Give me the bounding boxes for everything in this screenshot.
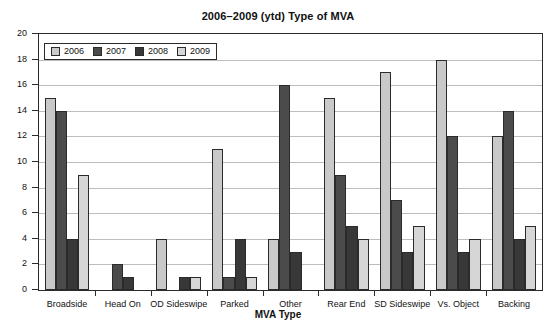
bar — [514, 239, 525, 290]
legend: 2006200720082009 — [44, 43, 217, 60]
bar — [179, 277, 190, 290]
bar — [358, 239, 369, 290]
bar — [290, 252, 301, 290]
legend-swatch-icon — [51, 47, 60, 56]
bar — [45, 98, 56, 290]
y-tick-label: 8 — [22, 182, 27, 191]
bar — [279, 85, 290, 290]
x-tick-mark — [318, 291, 319, 296]
x-category-label: Other — [279, 299, 302, 309]
x-tick-mark — [430, 291, 431, 296]
bar — [402, 252, 413, 290]
bar — [391, 200, 402, 290]
chart-title: 2006–2009 (ytd) Type of MVA — [0, 10, 556, 22]
bar — [436, 60, 447, 290]
bar — [78, 175, 89, 290]
bar — [469, 239, 480, 290]
bar — [212, 149, 223, 290]
x-category-label: Broadside — [47, 299, 88, 309]
bar — [380, 72, 391, 290]
x-tick-mark — [151, 291, 152, 296]
x-category-label: Backing — [498, 299, 530, 309]
bar — [123, 277, 134, 290]
y-tick-label: 16 — [17, 80, 27, 89]
y-tick-label: 0 — [22, 285, 27, 294]
bar — [413, 226, 424, 290]
y-tick-label: 10 — [17, 157, 27, 166]
y-tick-label: 14 — [17, 105, 27, 114]
legend-item-2009: 2009 — [177, 47, 210, 56]
legend-item-2008: 2008 — [135, 47, 168, 56]
bar-chart: 2006–2009 (ytd) Type of MVA 024681012141… — [0, 0, 556, 329]
legend-swatch-icon — [135, 47, 144, 56]
bar — [67, 239, 78, 290]
legend-item-2007: 2007 — [93, 47, 126, 56]
legend-label: 2009 — [190, 47, 210, 56]
bar — [235, 239, 246, 290]
legend-label: 2008 — [148, 47, 168, 56]
bar — [324, 98, 335, 290]
bar — [156, 239, 167, 290]
legend-swatch-icon — [93, 47, 102, 56]
bar-group — [207, 34, 263, 290]
bar-group — [318, 34, 374, 290]
y-tick-label: 6 — [22, 208, 27, 217]
x-category-label: Vs. Object — [437, 299, 479, 309]
x-category-label: Head On — [105, 299, 141, 309]
y-tick-label: 12 — [17, 131, 27, 140]
x-tick-mark — [374, 291, 375, 296]
bar — [458, 252, 469, 290]
bar-group — [151, 34, 207, 290]
bar — [112, 264, 123, 290]
bar-group — [95, 34, 151, 290]
x-tick-mark — [263, 291, 264, 296]
bar — [56, 111, 67, 290]
y-tick-label: 4 — [22, 233, 27, 242]
bar — [190, 277, 201, 290]
x-category-label: OD Sideswipe — [150, 299, 207, 309]
bar-group — [39, 34, 95, 290]
y-axis: 02468101214161820 — [0, 33, 38, 291]
y-tick-label: 2 — [22, 259, 27, 268]
bar — [268, 239, 279, 290]
bar — [246, 277, 257, 290]
bar — [346, 226, 357, 290]
y-tick-label: 18 — [17, 54, 27, 63]
legend-swatch-icon — [177, 47, 186, 56]
x-tick-mark — [207, 291, 208, 296]
bar — [492, 136, 503, 290]
bar-group — [486, 34, 542, 290]
x-category-label: Rear End — [327, 299, 365, 309]
y-tick-label: 20 — [17, 29, 27, 38]
x-category-label: SD Sideswipe — [374, 299, 430, 309]
bar-group — [263, 34, 319, 290]
plot-area — [38, 33, 543, 291]
x-axis-title: MVA Type — [0, 309, 556, 320]
x-tick-mark — [95, 291, 96, 296]
legend-item-2006: 2006 — [51, 47, 84, 56]
legend-label: 2007 — [106, 47, 126, 56]
x-tick-mark — [486, 291, 487, 296]
bar — [503, 111, 514, 290]
bar — [223, 277, 234, 290]
bar-group — [430, 34, 486, 290]
bar-group — [374, 34, 430, 290]
bars-layer — [39, 34, 542, 290]
x-category-label: Parked — [220, 299, 249, 309]
bar — [525, 226, 536, 290]
legend-label: 2006 — [64, 47, 84, 56]
bar — [447, 136, 458, 290]
bar — [335, 175, 346, 290]
